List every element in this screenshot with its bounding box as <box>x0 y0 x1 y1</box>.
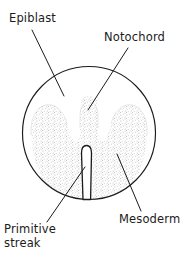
label-notochord: Notochord <box>104 31 165 45</box>
label-primitive-streak: Primitive streak <box>4 223 56 250</box>
epiblast-leader-line <box>32 30 64 96</box>
primitive-streak-shape <box>82 146 92 200</box>
embryo-cross-section-figure: Epiblast Notochord Primitive streak Meso… <box>0 0 185 262</box>
label-mesoderm: Mesoderm <box>119 213 180 227</box>
label-epiblast: Epiblast <box>9 12 56 26</box>
notochord-tip <box>81 96 97 107</box>
notochord-leader-line <box>88 48 128 110</box>
